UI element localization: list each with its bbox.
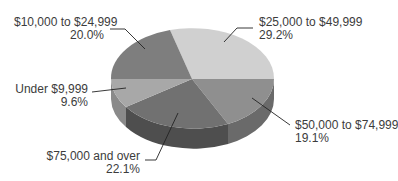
label-under-9999: Under $9,999 9.6% <box>10 83 88 109</box>
label-value: 29.2% <box>259 29 362 42</box>
label-25000-49999: $25,000 to $49,999 29.2% <box>259 16 362 42</box>
label-75000-over: $75,000 and over 22.1% <box>40 150 140 176</box>
label-value: 19.1% <box>295 132 398 145</box>
label-10000-24999: $10,000 to $24,999 20.0% <box>14 16 104 42</box>
label-value: 9.6% <box>10 96 88 109</box>
label-value: 20.0% <box>14 29 104 42</box>
label-value: 22.1% <box>40 163 140 176</box>
label-50000-74999: $50,000 to $74,999 19.1% <box>295 119 398 145</box>
